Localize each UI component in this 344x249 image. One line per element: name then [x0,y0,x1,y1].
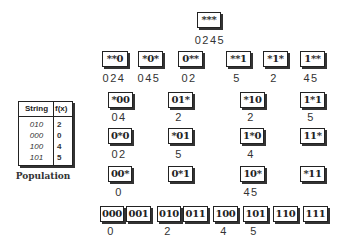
schema-box: *11 [300,166,325,182]
schema-values: 5 [295,111,327,123]
population-caption: Population [6,171,80,181]
row-fx: 4 [57,142,61,152]
row-fx: 0 [57,131,61,141]
schema-values-root: 0245 [188,34,232,46]
schema-values: 45 [295,72,327,84]
schema-values: 2 [163,111,195,123]
schema-box: *0* [138,51,163,67]
table-row: 101 5 [19,153,72,163]
schema-box: 0*1 [168,166,193,182]
schema-box: 0*0 [108,128,132,144]
table-header: String f(x) [19,102,72,117]
schema-box: 00* [108,166,132,182]
schema-box: *1* [263,51,288,67]
schema-values: 45 [235,186,267,198]
population-table: String f(x) 010 2 000 0 100 4 101 5 [18,101,73,166]
header-string: String [20,102,53,116]
schema-values: 02 [103,148,135,160]
schema-box: 0** [178,51,203,67]
schema-values: 5 [163,148,195,160]
schema-box: *01 [168,128,193,144]
row-string: 010 [22,120,51,130]
schema-box: 1*1 [300,92,325,108]
schema-values: 045 [133,72,165,84]
schema-box: 10* [240,166,265,182]
schema-values: 2 [258,72,290,84]
row-string: 100 [22,142,51,152]
leaf-values: 0 [95,225,127,237]
schema-box: 1*0 [240,128,264,144]
schema-values: 02 [173,72,205,84]
leaf-box: 100 [213,206,238,222]
schema-values: 5 [221,72,253,84]
schema-box-root: *** [197,12,221,28]
leaf-values: 5 [238,225,270,237]
schema-box: **0 [102,51,128,67]
row-fx: 2 [57,120,61,130]
row-string: 000 [22,131,51,141]
schema-values: 024 [98,72,130,84]
leaf-box: 111 [303,206,328,222]
table-row: 010 2 [19,120,72,130]
schema-values: 04 [103,111,135,123]
schema-values: 4 [235,148,267,160]
schema-values: 2 [235,111,267,123]
leaf-values: 4 [208,225,240,237]
leaf-values: 2 [152,225,184,237]
leaf-box: 001 [126,206,151,222]
row-fx: 5 [57,153,61,163]
leaf-box: 000 [100,206,124,222]
leaf-box: 101 [243,206,268,222]
schema-box: *00 [108,92,133,108]
schema-box: **1 [226,51,251,67]
schema-box: 1** [300,51,325,67]
leaf-box: 010 [157,206,181,222]
schema-values: 0 [103,186,135,198]
schema-box: 11* [300,128,325,144]
header-fx: f(x) [55,102,71,116]
leaf-box: 110 [273,206,298,222]
schema-box: 01* [168,92,193,108]
table-row: 100 4 [19,142,72,152]
schema-box: *10 [240,92,265,108]
row-string: 101 [22,153,51,163]
table-row: 000 0 [19,131,72,141]
leaf-box: 011 [183,206,208,222]
